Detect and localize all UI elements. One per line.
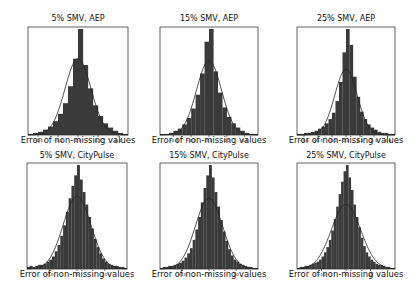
x-axis-label: Error of non-missing values — [277, 136, 415, 145]
histogram-bar — [58, 245, 61, 269]
histogram-bar — [329, 240, 332, 269]
histogram-bar — [223, 232, 226, 269]
x-axis-label: Error of non-missing values — [7, 270, 147, 279]
histogram-bar — [209, 29, 214, 135]
histogram-bar — [80, 180, 83, 269]
histogram-bar — [66, 212, 69, 269]
panel-5pct-citypulse: 5% SMV, CityPulse −10010 Error of non-mi… — [27, 151, 127, 286]
histogram-bar — [346, 29, 350, 135]
histogram-bar — [198, 217, 201, 269]
histogram-bar — [63, 103, 68, 135]
panel-15pct-citypulse: 15% SMV, CityPulse −10010 Error of non-m… — [160, 151, 258, 286]
histogram-bar — [317, 262, 320, 269]
panel-title: 15% SMV, AEP — [160, 14, 258, 23]
panel-title: 25% SMV, AEP — [297, 14, 395, 23]
histogram-bar — [214, 192, 217, 269]
histogram-bar — [68, 86, 73, 135]
histogram-bar — [368, 257, 371, 269]
histogram-bar — [346, 165, 349, 269]
histogram-bar — [88, 88, 93, 135]
histogram-bar — [58, 114, 63, 135]
histogram-plot: −10010 — [297, 163, 395, 269]
histogram-bar — [350, 45, 354, 135]
histogram-bar — [185, 258, 188, 269]
histogram-bar — [366, 252, 369, 269]
histogram-bar — [322, 257, 325, 269]
histogram-bar — [231, 255, 234, 269]
histogram-bar — [371, 260, 374, 269]
histogram-bar — [332, 113, 336, 135]
histogram-bar — [373, 262, 376, 269]
histogram-bar — [96, 247, 99, 269]
histogram-bar — [361, 238, 364, 269]
histogram-bar — [213, 71, 218, 135]
histogram-bar — [91, 228, 94, 269]
histogram-bar — [52, 257, 55, 269]
histogram-bar — [367, 124, 371, 135]
histogram-bar — [102, 259, 105, 269]
histogram-bar — [325, 123, 329, 135]
x-axis-label: Error of non-missing values — [277, 270, 415, 279]
histogram-plot: −0.4−0.20.00.20.4 — [160, 27, 258, 135]
histogram-bar — [182, 261, 185, 269]
histogram-bar — [48, 127, 53, 135]
histogram-bar — [358, 227, 361, 269]
histogram-bar — [195, 229, 198, 269]
panel-title: 25% SMV, CityPulse — [297, 151, 395, 160]
histogram-bar — [356, 217, 359, 269]
histogram-bar — [363, 246, 366, 269]
histogram-bar — [205, 42, 210, 135]
histogram-bar — [222, 107, 227, 135]
x-axis-label: Error of non-missing values — [140, 136, 278, 145]
histogram-bar — [55, 251, 58, 269]
histogram-bar — [69, 198, 72, 269]
histogram-bar — [336, 101, 340, 135]
histogram-bar — [228, 249, 231, 269]
histogram-bar — [212, 177, 215, 269]
histogram-bar — [218, 93, 223, 135]
histogram-bar — [105, 262, 108, 269]
histogram-bar — [234, 260, 237, 269]
histogram-bar — [339, 82, 343, 135]
histogram-bar — [339, 194, 342, 269]
panel-title: 5% SMV, CityPulse — [27, 151, 127, 160]
histogram-plot: −10010 — [27, 163, 127, 269]
histogram-bar — [329, 119, 333, 135]
histogram-bar — [49, 260, 52, 269]
histogram-bar — [74, 175, 77, 269]
panel-15pct-aep: 15% SMV, AEP −0.4−0.20.00.20.4 Error of … — [160, 14, 258, 149]
histogram-bar — [46, 262, 49, 269]
histogram-bar — [331, 231, 334, 269]
histogram-bar — [220, 220, 223, 269]
panel-5pct-aep: 5% SMV, AEP −0.4−0.20.00.20.4 Error of n… — [28, 14, 128, 149]
histogram-bar — [341, 182, 344, 269]
histogram-bar — [206, 175, 209, 269]
histogram-bar — [60, 236, 63, 269]
x-axis-label: Error of non-missing values — [140, 270, 278, 279]
panel-25pct-citypulse: 25% SMV, CityPulse −10010 Error of non-m… — [297, 151, 395, 286]
histogram-bar — [343, 52, 347, 135]
histogram-bar — [78, 29, 83, 135]
histogram-bar — [99, 253, 102, 269]
histogram-bar — [348, 177, 351, 269]
histogram-bar — [201, 202, 204, 269]
histogram-bar — [200, 74, 205, 135]
histogram-bar — [187, 118, 192, 135]
histogram-bar — [77, 165, 80, 269]
histogram-bar — [193, 240, 196, 269]
histogram-bar — [351, 190, 354, 269]
panel-25pct-aep: 25% SMV, AEP −0.6−0.4−0.20.00.20.40.6 Er… — [297, 14, 395, 149]
histogram-bar — [209, 165, 212, 269]
histogram-bar — [364, 119, 368, 135]
histogram-bar — [187, 253, 190, 269]
histogram-bar — [94, 239, 97, 269]
histogram-bar — [326, 247, 329, 269]
histogram-bar — [196, 95, 201, 135]
histogram-bar — [319, 260, 322, 269]
histogram-bar — [190, 248, 193, 269]
histogram-plot: −10010 — [160, 163, 258, 269]
histogram-plot: −0.6−0.4−0.20.00.20.40.6 — [297, 27, 395, 135]
panel-title: 15% SMV, CityPulse — [160, 151, 258, 160]
histogram-bar — [53, 121, 58, 135]
histogram-bar — [63, 225, 66, 269]
